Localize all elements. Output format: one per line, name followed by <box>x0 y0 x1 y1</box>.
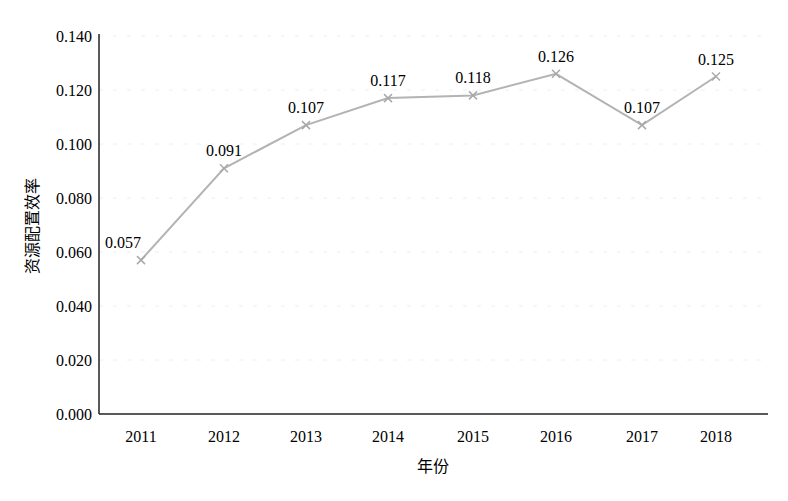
y-tick-label: 0.000 <box>56 406 92 423</box>
x-axis-title: 年份 <box>417 457 449 476</box>
gridlines <box>99 36 768 360</box>
x-marker-icon <box>220 164 228 172</box>
y-tick-label: 0.040 <box>56 298 92 315</box>
y-tick-label: 0.140 <box>56 28 92 45</box>
y-tick-label: 0.100 <box>56 136 92 153</box>
x-tick-label: 2012 <box>208 428 240 445</box>
x-tick-label: 2015 <box>457 428 489 445</box>
data-label: 0.091 <box>206 142 242 159</box>
x-tick-label: 2016 <box>540 428 572 445</box>
x-tick-label: 2014 <box>372 428 404 445</box>
x-tick-label: 2011 <box>125 428 156 445</box>
y-axis-title: 资源配置效率 <box>23 178 42 274</box>
data-label: 0.118 <box>455 69 490 86</box>
data-label: 0.126 <box>538 48 574 65</box>
y-tick-label: 0.060 <box>56 244 92 261</box>
x-marker-icon <box>137 256 145 264</box>
x-marker-icon <box>638 121 646 129</box>
x-tick-label: 2018 <box>700 428 732 445</box>
data-labels: 0.0570.0910.1070.1170.1180.1260.1070.125 <box>105 48 734 251</box>
data-label: 0.107 <box>288 99 324 116</box>
x-axis-ticks: 20112012201320142015201620172018 <box>125 428 732 445</box>
y-axis-ticks: 0.0000.0200.0400.0600.0800.1000.1200.140 <box>56 28 92 423</box>
data-label: 0.117 <box>370 72 405 89</box>
y-tick-label: 0.020 <box>56 352 92 369</box>
data-label: 0.125 <box>698 51 734 68</box>
y-tick-label: 0.080 <box>56 190 92 207</box>
x-marker-icon <box>712 73 720 81</box>
y-tick-label: 0.120 <box>56 82 92 99</box>
data-label: 0.107 <box>624 99 660 116</box>
x-tick-label: 2013 <box>290 428 322 445</box>
data-label: 0.057 <box>105 234 141 251</box>
line-chart: 0.0000.0200.0400.0600.0800.1000.1200.140… <box>0 0 788 501</box>
x-tick-label: 2017 <box>626 428 658 445</box>
